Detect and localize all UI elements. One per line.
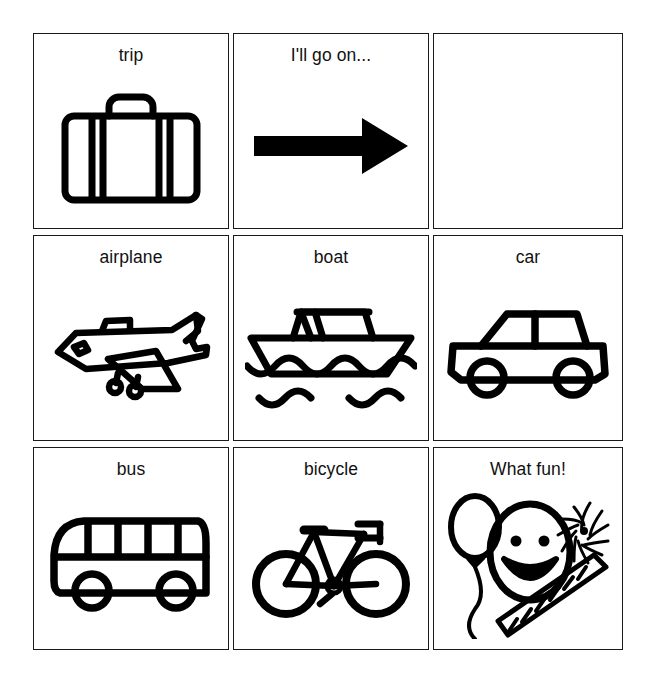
car-icon bbox=[434, 270, 622, 436]
right-arrow-icon bbox=[234, 68, 428, 224]
card-label-car: car bbox=[434, 247, 622, 268]
card-car[interactable]: car bbox=[433, 235, 623, 441]
card-label-trip: trip bbox=[34, 45, 228, 66]
suitcase-icon bbox=[34, 68, 228, 224]
card-label-airplane: airplane bbox=[34, 247, 228, 268]
boat-icon bbox=[234, 270, 428, 436]
celebration-icon bbox=[434, 482, 622, 645]
airplane-icon bbox=[34, 270, 228, 436]
card-bicycle[interactable]: bicycle bbox=[233, 447, 429, 650]
card-what-fun[interactable]: What fun! bbox=[433, 447, 623, 650]
bicycle-icon bbox=[234, 482, 428, 645]
card-label-boat: boat bbox=[234, 247, 428, 268]
card-label-ill-go-on: I'll go on... bbox=[234, 45, 428, 66]
empty-placeholder bbox=[434, 68, 622, 224]
card-label-bicycle: bicycle bbox=[234, 459, 428, 480]
bus-icon bbox=[34, 482, 228, 645]
card-answer-blank[interactable] bbox=[433, 33, 623, 229]
card-airplane[interactable]: airplane bbox=[33, 235, 229, 441]
picture-communication-board: trip I'll go on... bbox=[33, 33, 623, 650]
card-ill-go-on[interactable]: I'll go on... bbox=[233, 33, 429, 229]
card-trip[interactable]: trip bbox=[33, 33, 229, 229]
card-boat[interactable]: boat bbox=[233, 235, 429, 441]
card-bus[interactable]: bus bbox=[33, 447, 229, 650]
card-label-bus: bus bbox=[34, 459, 228, 480]
card-label-what-fun: What fun! bbox=[434, 459, 622, 480]
